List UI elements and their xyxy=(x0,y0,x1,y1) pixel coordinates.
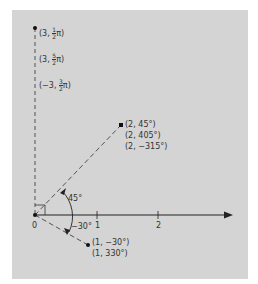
label-1-neg30-2: (1, 330°) xyxy=(92,250,128,258)
angle-label-45: 45° xyxy=(68,195,82,203)
label-2-45-1: (2, 45°) xyxy=(125,121,156,129)
label-3-half-pi-1: (3, 12π) xyxy=(39,27,64,40)
label-3-half-pi-2: (3, 52π) xyxy=(39,53,64,66)
label-3-half-pi-3: (−3, 32π) xyxy=(39,79,71,92)
point-2-45-dot xyxy=(119,123,123,127)
label-2-45-3: (2, −315°) xyxy=(125,143,167,151)
tick-label-1: 1 xyxy=(95,222,100,230)
axis-arrow-icon xyxy=(224,212,233,219)
origin-label: 0 xyxy=(32,222,37,230)
label-1-neg30-1: (1, −30°) xyxy=(92,239,129,247)
label-2-45-2: (2, 405°) xyxy=(125,132,161,140)
angle-label-neg30: −30° xyxy=(71,223,92,231)
point-1-neg30-dot xyxy=(86,243,90,247)
origin-dot xyxy=(33,213,37,217)
tick-label-2: 2 xyxy=(156,222,161,230)
point-3-half-pi-dot xyxy=(33,26,37,30)
